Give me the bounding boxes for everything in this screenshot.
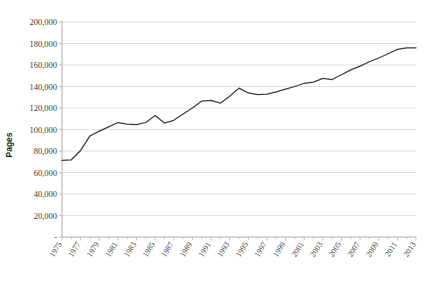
x-tick-label-1993: 1993	[215, 240, 231, 258]
x-tick-label-1997: 1997	[253, 240, 269, 258]
y-tick-label-180000: 180,000	[29, 39, 57, 49]
y-tick-label-60000: 60,000	[34, 168, 57, 178]
x-tick-label-1981: 1981	[103, 240, 119, 258]
y-tick-label-120000: 120,000	[29, 103, 57, 113]
y-tick-label-80000: 80,000	[34, 146, 57, 156]
y-axis-title: Pages	[4, 132, 14, 157]
x-tick-label-1977: 1977	[66, 240, 82, 258]
x-tick-label-1979: 1979	[85, 240, 101, 258]
x-tick-label-2007: 2007	[346, 240, 362, 258]
gridlines	[62, 22, 416, 216]
x-tick-label-1983: 1983	[122, 240, 138, 258]
x-tick-label-1995: 1995	[234, 240, 250, 258]
chart-container: 200,000180,000160,000140,000120,000100,0…	[0, 0, 425, 281]
x-tick-label-1985: 1985	[141, 240, 157, 258]
y-tick-labels: 200,000180,000160,000140,000120,000100,0…	[29, 17, 62, 242]
x-tick-label-2005: 2005	[327, 240, 343, 258]
line-chart: 200,000180,000160,000140,000120,000100,0…	[0, 0, 425, 281]
y-tick-label-20000: 20,000	[34, 211, 57, 221]
x-tick-marks	[62, 237, 416, 241]
y-tick-label-100000: 100,000	[29, 125, 57, 135]
x-tick-label-2001: 2001	[290, 240, 306, 258]
x-tick-label-1989: 1989	[178, 240, 194, 258]
x-tick-label-2009: 2009	[364, 240, 380, 258]
y-tick-label-200000: 200,000	[29, 17, 57, 27]
x-tick-label-2013: 2013	[402, 240, 418, 258]
x-tick-label-2003: 2003	[308, 240, 324, 258]
x-tick-label-1975: 1975	[48, 240, 64, 258]
y-tick-label-40000: 40,000	[34, 189, 57, 199]
x-tick-label-1999: 1999	[271, 240, 287, 258]
x-tick-label-1991: 1991	[197, 240, 213, 258]
x-tick-label-2011: 2011	[383, 240, 399, 258]
y-tick-label-140000: 140,000	[29, 82, 57, 92]
x-tick-label-1987: 1987	[159, 240, 175, 258]
y-axis-title-text: Pages	[4, 132, 14, 157]
y-tick-label-160000: 160,000	[29, 60, 57, 70]
x-tick-labels: 1975197719791981198319851987198919911993…	[48, 240, 418, 258]
